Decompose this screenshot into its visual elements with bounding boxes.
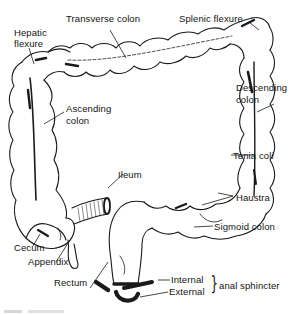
label-ascending-colon-line2: colon [66, 116, 89, 126]
colon-diagram: Transverse colon Splenic flexure Hepatic… [0, 0, 293, 314]
label-descending-colon-line1: Descending [236, 83, 287, 93]
label-external: External [169, 287, 205, 297]
ascending-colon-inner-edge [44, 80, 67, 218]
label-anal-sphincter: anal sphincter [219, 281, 280, 291]
label-appendix: Appendix [28, 257, 68, 267]
ascending-colon-outline [9, 62, 56, 249]
leader-sigmoid-colon [194, 226, 213, 227]
label-hepatic-flexure-line1: Hepatic [14, 28, 47, 38]
ileum-tube [72, 198, 106, 208]
label-rectum: Rectum [54, 278, 87, 288]
leader-external [140, 292, 168, 297]
label-cecum: Cecum [14, 243, 45, 253]
leader-haustra-a [218, 193, 233, 196]
label-tenia-coli: Tenia coli [233, 151, 274, 161]
label-ascending-colon-line1: Ascending [66, 104, 111, 114]
sphincter-brace: } [211, 273, 219, 293]
external-sphincter [116, 292, 138, 301]
leader-hepatic-flexure [29, 48, 34, 64]
label-descending-colon-line2: colon [236, 95, 259, 105]
label-transverse-colon: Transverse colon [66, 14, 140, 24]
label-ileum: Ileum [118, 170, 142, 180]
leader-splenic-flexure [249, 22, 259, 30]
rectum-outline [109, 201, 144, 284]
label-haustra: Haustra [236, 193, 270, 203]
appendix-outline [68, 240, 78, 269]
label-sigmoid-colon: Sigmoid colon [214, 222, 275, 232]
label-hepatic-flexure-line2: flexure [14, 39, 43, 49]
label-splenic-flexure: Splenic flexure [179, 14, 243, 24]
leader-transverse-colon [110, 30, 126, 58]
cropped-caption-artifact [4, 310, 64, 313]
leader-descending-colon [257, 104, 274, 112]
label-internal: Internal [171, 275, 204, 285]
descending-colon-outline [266, 50, 275, 214]
